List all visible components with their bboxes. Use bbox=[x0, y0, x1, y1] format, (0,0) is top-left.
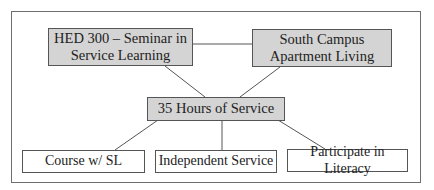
node-hed300-line2: Service Learning bbox=[54, 47, 187, 64]
node-literacy-label: Participate in Literacy bbox=[288, 144, 407, 178]
node-hed300: HED 300 – Seminar in Service Learning bbox=[48, 28, 193, 66]
node-course-label: Course w/ SL bbox=[45, 153, 122, 170]
edge-hours-course bbox=[115, 120, 158, 150]
edge-hed-hours bbox=[165, 66, 205, 97]
node-hours-label: 35 Hours of Service bbox=[158, 100, 274, 117]
edge-south-hours bbox=[240, 67, 280, 97]
node-participate-literacy: Participate in Literacy bbox=[287, 149, 408, 172]
node-south-campus-line2: Apartment Living bbox=[270, 48, 374, 65]
node-hours-of-service: 35 Hours of Service bbox=[147, 97, 285, 121]
node-independent-label: Independent Service bbox=[159, 153, 274, 170]
node-south-campus-line1: South Campus bbox=[270, 31, 374, 48]
node-independent-service: Independent Service bbox=[155, 150, 277, 173]
node-south-campus: South Campus Apartment Living bbox=[252, 29, 392, 67]
node-hed300-line1: HED 300 – Seminar in bbox=[54, 30, 187, 47]
node-course-sl: Course w/ SL bbox=[22, 150, 145, 173]
